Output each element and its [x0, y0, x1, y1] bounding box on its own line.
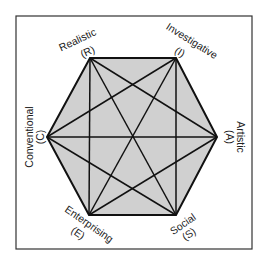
label-artistic-abbr: (A) [224, 130, 236, 144]
label-conventional-abbr: (C) [34, 130, 46, 145]
riasec-hexagon-diagram: Realistic (R) Investigative (I) Artistic… [0, 0, 269, 261]
